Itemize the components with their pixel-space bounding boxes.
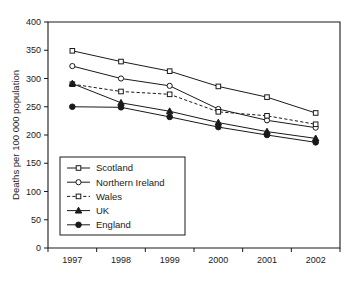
marker-open-square xyxy=(119,89,124,94)
y-tick-label: 200 xyxy=(26,130,41,140)
legend: ScotlandNorthern IrelandWalesUKEngland xyxy=(60,157,185,235)
y-axis: 050100150200250300350400 xyxy=(26,17,48,253)
y-tick-label: 100 xyxy=(26,187,41,197)
series-group xyxy=(69,49,319,146)
legend-item-label: UK xyxy=(96,205,110,216)
marker-open-square xyxy=(167,92,172,97)
chart-canvas: 050100150200250300350400Deaths per 100 0… xyxy=(0,0,360,286)
marker-open-square xyxy=(76,194,81,199)
y-tick-label: 300 xyxy=(26,74,41,84)
legend-item-label: Northern Ireland xyxy=(96,177,165,188)
x-tick-label: 2002 xyxy=(306,255,326,265)
legend-item-label: England xyxy=(96,219,131,230)
x-tick-label: 1997 xyxy=(62,255,82,265)
x-tick-label: 1998 xyxy=(111,255,131,265)
marker-filled-circle xyxy=(216,124,222,130)
marker-open-square xyxy=(216,110,221,115)
marker-open-square xyxy=(313,122,318,127)
marker-filled-circle xyxy=(118,105,124,111)
marker-open-square xyxy=(265,95,270,100)
marker-open-square xyxy=(76,166,81,171)
series-line xyxy=(72,66,315,128)
marker-filled-circle xyxy=(70,104,76,110)
y-tick-label: 150 xyxy=(26,158,41,168)
y-tick-label: 250 xyxy=(26,102,41,112)
x-axis: 199719981999200020012002 xyxy=(48,248,340,265)
series-line xyxy=(72,107,315,143)
x-tick-label: 2000 xyxy=(208,255,228,265)
marker-filled-circle xyxy=(264,132,270,138)
x-tick-label: 1999 xyxy=(160,255,180,265)
marker-open-circle xyxy=(76,180,81,185)
marker-open-square xyxy=(265,113,270,118)
series-england xyxy=(70,104,319,145)
series-line xyxy=(72,84,315,139)
series-wales xyxy=(70,82,318,127)
marker-filled-circle xyxy=(313,140,319,146)
x-tick-label: 2001 xyxy=(257,255,277,265)
marker-open-square xyxy=(167,69,172,74)
series-line xyxy=(72,51,315,113)
series-line xyxy=(72,84,315,124)
marker-open-square xyxy=(313,111,318,116)
y-tick-label: 400 xyxy=(26,17,41,27)
marker-open-square xyxy=(216,84,221,89)
marker-open-square xyxy=(119,59,124,64)
marker-open-circle xyxy=(118,76,123,81)
marker-filled-circle xyxy=(167,114,173,120)
y-tick-label: 350 xyxy=(26,45,41,55)
marker-open-square xyxy=(70,49,75,54)
series-scotland xyxy=(70,49,318,116)
y-tick-label: 50 xyxy=(31,215,41,225)
marker-open-circle xyxy=(167,83,172,88)
legend-item-label: Scotland xyxy=(96,162,133,173)
marker-open-circle xyxy=(70,63,75,68)
y-axis-title: Deaths per 100 000 population xyxy=(10,70,21,200)
line-chart: 050100150200250300350400Deaths per 100 0… xyxy=(0,0,360,286)
y-tick-label: 0 xyxy=(36,243,41,253)
marker-filled-circle xyxy=(76,222,82,228)
legend-item-label: Wales xyxy=(96,191,122,202)
